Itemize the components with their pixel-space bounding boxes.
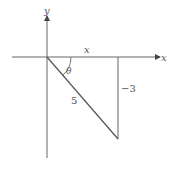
hypotenuse-label: 5 [71,95,77,106]
vertical-leg-label: −3 [121,83,136,94]
hypotenuse [47,57,118,139]
x-axis-label: x [161,52,167,63]
angle-label: θ [66,66,72,76]
y-axis-label: y [43,5,50,16]
horizontal-leg-label: x [84,44,90,55]
diagram-canvas: y x x −3 5 θ [0,0,172,169]
